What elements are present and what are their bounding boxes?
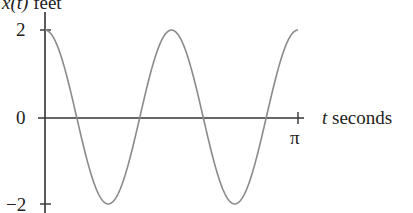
y-tick-label-neg2: −2 — [6, 195, 26, 213]
x-tick-label-pi: π — [290, 128, 300, 147]
y-axis-label: x(t) feet — [2, 0, 62, 12]
x-axis-label: t seconds — [322, 108, 392, 127]
y-tick-label-0: 0 — [16, 108, 26, 127]
y-tick-label-2: 2 — [16, 20, 26, 39]
series-line — [45, 30, 298, 204]
